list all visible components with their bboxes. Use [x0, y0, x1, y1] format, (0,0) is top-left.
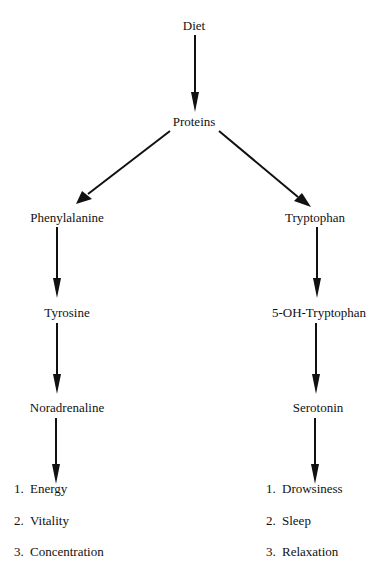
node-tyrosine: Tyrosine [44, 305, 89, 321]
node-serotonin: Serotonin [293, 400, 344, 416]
arrow-tryptophan-5oh [313, 227, 321, 298]
list-item: 2.Sleep [266, 513, 311, 529]
arrow-proteins-tryptophan [219, 131, 311, 207]
node-proteins: Proteins [173, 114, 216, 130]
arrow-diet-proteins [191, 35, 199, 112]
arrow-proteins-phenylalanine [76, 131, 170, 204]
list-item: 1.Drowsiness [266, 481, 343, 497]
list-item: 3.Relaxation [266, 544, 338, 560]
node-diet: Diet [183, 18, 205, 34]
node-5-oh-tryptophan: 5-OH-Tryptophan [272, 305, 366, 321]
node-phenylalanine: Phenylalanine [30, 210, 104, 226]
arrow-5oh-serotonin [312, 323, 320, 394]
arrow-serotonin-effects [311, 418, 319, 484]
list-item: 3.Concentration [14, 544, 104, 560]
list-item: 1.Energy [14, 481, 67, 497]
arrow-tyrosine-noradrenaline [53, 323, 61, 394]
arrow-phenylalanine-tyrosine [53, 227, 61, 298]
node-noradrenaline: Noradrenaline [30, 400, 104, 416]
list-item: 2.Vitality [14, 513, 69, 529]
arrow-noradrenaline-effects [52, 418, 60, 484]
node-tryptophan: Tryptophan [285, 210, 345, 226]
